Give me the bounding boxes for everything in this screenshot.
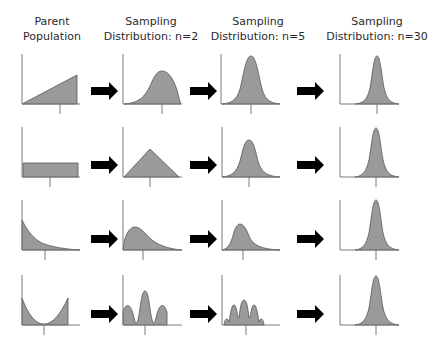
- distribution-curve: [23, 163, 78, 177]
- row-u-shaped: [22, 275, 399, 335]
- distribution-curve: [124, 71, 181, 104]
- panel-uniform-n2: [123, 127, 182, 187]
- panel-uniform-parent: [22, 127, 80, 187]
- row-exponential: [22, 200, 399, 260]
- distribution-curve: [355, 200, 399, 250]
- distribution-curve: [222, 56, 280, 104]
- distribution-curve: [22, 75, 77, 104]
- panel-u-shaped-n30: [340, 275, 399, 335]
- distribution-curve: [355, 276, 399, 325]
- panel-exponential-n2: [123, 200, 182, 260]
- panel-uniform-n5: [222, 127, 280, 187]
- panel-u-shaped-n5: [222, 275, 280, 335]
- distribution-curve: [22, 220, 80, 250]
- right-arrow-icon: [91, 230, 118, 248]
- distribution-curve: [224, 300, 264, 325]
- distribution-curve: [123, 291, 167, 325]
- panel-exponential-parent: [22, 200, 80, 260]
- panel-right-triangular-parent: [22, 54, 80, 114]
- panel-exponential-n5: [222, 200, 280, 260]
- right-arrow-icon: [91, 305, 118, 323]
- panel-u-shaped-n2: [123, 275, 182, 335]
- panel-uniform-n30: [340, 127, 399, 187]
- right-arrow-icon: [190, 230, 217, 248]
- row-right-triangular: [22, 54, 399, 114]
- distribution-curve: [355, 56, 399, 104]
- panel-exponential-n30: [340, 200, 399, 260]
- right-arrow-icon: [190, 82, 217, 100]
- distribution-curve: [355, 128, 399, 177]
- right-arrow-icon: [297, 82, 324, 100]
- distribution-curve: [124, 149, 179, 177]
- panel-right-triangular-n30: [340, 54, 399, 114]
- right-arrow-icon: [190, 156, 217, 174]
- right-arrow-icon: [297, 305, 324, 323]
- row-uniform: [22, 127, 399, 187]
- distribution-curve: [222, 140, 280, 177]
- distribution-curve: [123, 227, 182, 250]
- panel-u-shaped-parent: [22, 275, 80, 335]
- right-arrow-icon: [190, 305, 217, 323]
- distribution-grid: [0, 0, 440, 346]
- right-arrow-icon: [91, 82, 118, 100]
- right-arrow-icon: [91, 156, 118, 174]
- right-arrow-icon: [297, 230, 324, 248]
- panel-right-triangular-n5: [221, 54, 280, 114]
- right-arrow-icon: [297, 156, 324, 174]
- distribution-curve: [222, 224, 280, 250]
- panel-right-triangular-n2: [123, 54, 182, 114]
- distribution-curve: [22, 298, 68, 325]
